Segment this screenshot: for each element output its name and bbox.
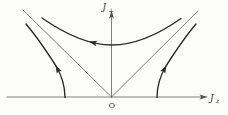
left-trajectory xyxy=(26,24,65,98)
right-trajectory-direction-arrow-icon xyxy=(160,64,169,74)
vertical-axis-label: J xyxy=(101,2,108,12)
hyperbola-direction-arrow-icon xyxy=(88,39,98,46)
vertical-axis-label-subscript: ⊥ xyxy=(109,7,114,13)
horizontal-axis-label-subscript: z xyxy=(215,97,220,104)
left-trajectory-direction-arrow-icon xyxy=(53,64,62,74)
right-trajectory xyxy=(157,24,196,98)
diagram-canvas: J ⊥ J z O xyxy=(0,0,228,115)
left-separatrix-line xyxy=(23,10,112,97)
horizontal-axis-label: J xyxy=(208,93,215,103)
phase-portrait-figure: J ⊥ J z O xyxy=(0,0,228,115)
right-separatrix-line xyxy=(112,11,199,97)
origin-label: O xyxy=(109,101,116,110)
